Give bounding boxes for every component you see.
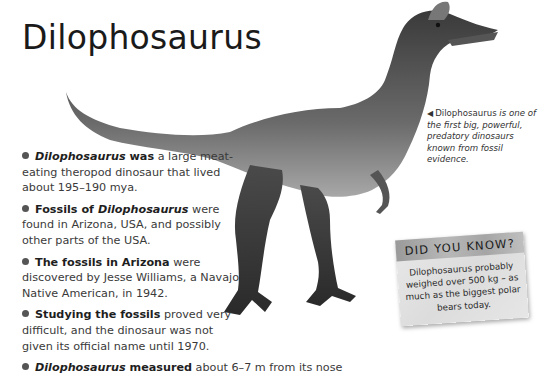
bullet-icon <box>22 363 29 370</box>
image-caption: ◀Dilophosaurus is one of the first big, … <box>427 108 542 166</box>
bullet-icon <box>22 205 29 212</box>
bullet-icon <box>22 258 29 265</box>
dinosaur-eye <box>436 23 440 27</box>
fact-item: Studying the fossils proved very difficu… <box>22 307 246 354</box>
fact-item: The fossils in Arizona were discovered b… <box>22 255 246 302</box>
did-you-know-text: Dilophosaurus probably weighed over 500 … <box>397 253 529 317</box>
fact-item: Fossils of Dilophosaurus were found in A… <box>22 202 246 249</box>
fact-item: Dilophosaurus measured about 6–7 m from … <box>22 360 382 376</box>
bullet-icon <box>22 152 29 159</box>
facts-list: Dilophosaurus was a large meat-eating th… <box>22 149 372 377</box>
bullet-icon <box>22 310 29 317</box>
did-you-know-box: DID YOU KNOW? Dilophosaurus probably wei… <box>395 232 529 327</box>
pointer-arrow-icon: ◀ <box>427 109 433 118</box>
fact-item: Dilophosaurus was a large meat-eating th… <box>22 149 246 196</box>
